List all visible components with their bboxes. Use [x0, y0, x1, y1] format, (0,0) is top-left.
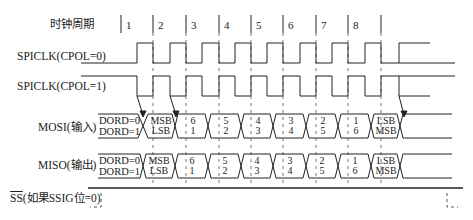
mosi-bit-cell: 34 [281, 116, 301, 136]
miso-bit-cell: 34 [279, 156, 301, 176]
mosi-bit-cell: 43 [248, 116, 268, 136]
spiclk-cpol1-label: SPICLK(CPOL=1) [17, 81, 106, 93]
mosi-bit-cell: 61 [183, 116, 203, 136]
miso-bit-cell: 43 [246, 156, 268, 176]
mosi-bit-cell: 16 [346, 116, 366, 136]
mosi-bit-cell: LSBMSB [375, 116, 397, 136]
mosi-bit-cell: 52 [216, 116, 236, 136]
mosi-dord0: DORD=0 [99, 116, 140, 126]
spiclk-cpol1-ss-edge [399, 76, 430, 96]
cycle-number-3: 3 [191, 20, 197, 31]
miso-bit-cell: MSBLSB [147, 156, 171, 176]
cycle-number-8: 8 [353, 20, 359, 31]
ss-bar-label: SS [10, 192, 23, 204]
ss-waveform [88, 188, 463, 207]
clock-cycle-label: 时钟周期 [50, 19, 94, 31]
cycle-number-5: 5 [256, 20, 262, 31]
miso-bit-cell: 61 [181, 156, 203, 176]
ss-label: SS(如果SSIG位=0) [10, 193, 101, 205]
miso-bit-cell: LSBMSB [375, 156, 397, 176]
mosi-bit-cell: MSBLSB [150, 116, 172, 136]
miso-dord1: DORD=1 [99, 167, 140, 177]
mosi-dord1: DORD=1 [99, 127, 140, 137]
cycle-number-7: 7 [321, 20, 327, 31]
cycle-number-4: 4 [224, 20, 230, 31]
mosi-bit-cell: 25 [313, 116, 333, 136]
spiclk-cpol0-label: SPICLK(CPOL=0) [17, 51, 106, 63]
mosi-label: MOSI(输入) [38, 122, 96, 134]
miso-bit-cell: 52 [214, 156, 236, 176]
cycle-number-6: 6 [288, 20, 294, 31]
cycle-number-1: 1 [126, 20, 132, 31]
miso-bit-cell: 25 [311, 156, 333, 176]
miso-label: MISO(输出) [38, 160, 96, 172]
miso-dord0: DORD=0 [99, 156, 140, 166]
spiclk-cpol0-ss-edge [399, 43, 430, 63]
cycle-number-2: 2 [158, 20, 164, 31]
spi-timing-diagram [0, 0, 473, 220]
miso-bit-cell: 16 [344, 156, 366, 176]
ss-condition-label: (如果SSIG位=0) [23, 192, 101, 204]
